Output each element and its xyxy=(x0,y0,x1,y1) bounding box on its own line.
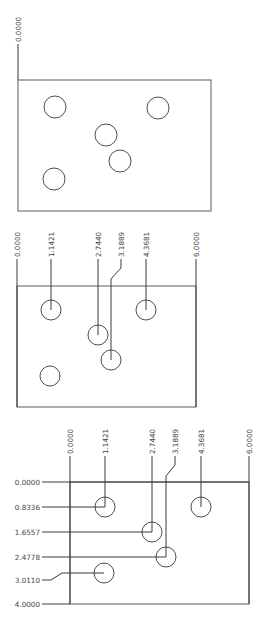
y-dim-label-1: 0.8336 xyxy=(15,503,41,512)
x-dim-label-0: 0.0000 xyxy=(66,428,75,454)
x-dim-label-3: 3.1889 xyxy=(117,231,126,257)
y-dim-label-0: 0.0000 xyxy=(15,478,41,487)
hole-2 xyxy=(147,97,169,119)
hole-5 xyxy=(43,168,65,190)
y-dim-label-2: 1.6557 xyxy=(15,528,40,537)
hole-5 xyxy=(40,366,60,386)
x-dim-label-3: 3.1889 xyxy=(171,428,180,454)
y-dim-label-3: 2.4778 xyxy=(15,553,41,562)
hole-1 xyxy=(44,96,66,118)
ordinate-dimension-drawing: 0.0000 0.0000 1.1421 2.7440 3.1889 4.368… xyxy=(0,0,270,620)
x-dim-line-3 xyxy=(166,456,175,557)
origin-label: 0.0000 xyxy=(14,16,23,42)
x-dim-label-5: 6.0000 xyxy=(192,231,201,257)
x-dim-label-1: 1.1421 xyxy=(101,429,110,454)
plate-outline xyxy=(17,286,196,407)
hole-3 xyxy=(95,124,117,146)
hole-4 xyxy=(109,150,131,172)
x-dim-line-3 xyxy=(111,259,121,360)
panel-x-dimension-view: 0.0000 1.1421 2.7440 3.1889 4.3681 6.000… xyxy=(13,231,201,407)
x-dim-label-5: 6.0000 xyxy=(245,428,254,454)
panel-unmarked-view: 0.0000 xyxy=(14,16,212,211)
y-dim-label-4: 3.0110 xyxy=(15,576,41,585)
x-dim-label-2: 2.7440 xyxy=(148,428,157,454)
x-dim-label-1: 1.1421 xyxy=(47,232,56,257)
y-dim-label-5: 4.0000 xyxy=(15,600,41,609)
x-dim-label-2: 2.7440 xyxy=(94,231,103,257)
x-dim-label-4: 4.3681 xyxy=(197,429,206,454)
x-dim-label-0: 0.0000 xyxy=(13,231,22,257)
plate-outline xyxy=(70,482,249,604)
x-dim-label-4: 4.3681 xyxy=(142,232,151,257)
panel-xy-dimension-view: 0.0000 1.1421 2.7440 3.1889 4.3681 6.000… xyxy=(15,428,254,608)
